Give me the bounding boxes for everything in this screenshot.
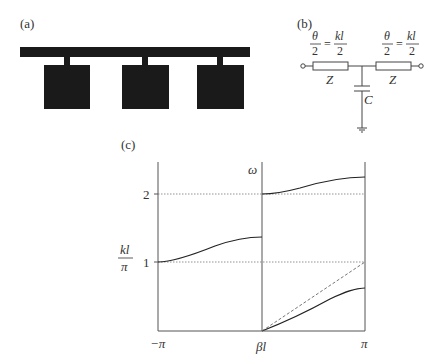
stub-stem-3 [217, 57, 223, 66]
right-impedance-element [376, 62, 411, 70]
resonator-3 [197, 65, 244, 109]
lower-band-curve [262, 288, 365, 331]
ground-icon [357, 128, 367, 132]
stub-stem-1 [64, 57, 70, 66]
panel-b: (b) θ 2 = kl 2 θ 2 = kl 2 [297, 16, 423, 132]
right-terminal-icon [419, 64, 423, 68]
y-tick-1: 1 [143, 255, 150, 270]
x-tick-pi: π [361, 336, 368, 351]
left-impedance-element [313, 62, 348, 70]
kl-num: kl [335, 29, 344, 43]
panel-c-label: (c) [121, 137, 135, 152]
resonator-2 [122, 65, 169, 109]
left-impedance-label: Z [326, 72, 334, 87]
omega-axis-label: ω [248, 162, 257, 177]
theta-num: θ [384, 29, 390, 43]
transmission-line-bar [20, 47, 250, 57]
y-tick-2: 2 [143, 187, 150, 202]
left-terminal-icon [301, 64, 305, 68]
kl-over-pi-label: kl π [118, 242, 133, 274]
kl-den: 2 [337, 44, 343, 58]
kl-den: 2 [409, 44, 415, 58]
theta-num: θ [312, 29, 318, 43]
panel-c: (c) ω 2 1 kl [118, 137, 368, 354]
right-impedance-label: Z [389, 72, 397, 87]
panel-a: (a) [20, 16, 250, 109]
theta-den: 2 [312, 44, 318, 58]
left-band-curve [158, 237, 262, 262]
resonator-1 [44, 65, 90, 109]
light-line-dashed [262, 262, 365, 331]
x-tick-neg-pi: −π [150, 336, 166, 351]
kl-num: kl [120, 242, 130, 257]
x-axis-label-beta-l: βl [255, 339, 266, 354]
panel-a-label: (a) [20, 16, 34, 31]
equals-sign: = [396, 37, 403, 51]
theta-den: 2 [384, 44, 390, 58]
capacitor-label: C [364, 92, 373, 107]
circuit [301, 62, 423, 132]
kl-num: kl [407, 29, 416, 43]
right-phase-equation: θ 2 = kl 2 [382, 29, 419, 58]
pi-den: π [121, 259, 128, 274]
equals-sign: = [324, 37, 331, 51]
stub-stem-2 [142, 57, 148, 66]
left-phase-equation: θ 2 = kl 2 [310, 29, 347, 58]
upper-band-curve [262, 177, 365, 194]
panel-b-label: (b) [297, 16, 312, 31]
